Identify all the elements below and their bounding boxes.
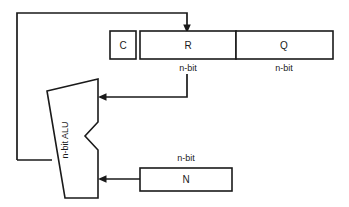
- block-diagram-canvas: C R n-bit Q n-bit n-bit ALU N n-bit: [0, 0, 349, 207]
- q-register-label: Q: [280, 40, 288, 51]
- q-register-width-label: n-bit: [275, 63, 293, 73]
- r-register-box: R n-bit: [140, 31, 236, 73]
- n-register-box: N n-bit: [140, 153, 232, 191]
- alu-block: n-bit ALU: [47, 79, 98, 198]
- n-register-label: N: [182, 174, 189, 185]
- r-to-alu-wire: [98, 74, 187, 101]
- n-to-alu-arrow-head: [98, 175, 107, 183]
- r-to-alu-arrow-head: [98, 93, 107, 101]
- n-register-width-label: n-bit: [177, 153, 195, 163]
- q-register-box: Q n-bit: [236, 31, 333, 73]
- r-register-label: R: [184, 40, 191, 51]
- n-to-alu-wire: [98, 175, 140, 183]
- diagram-svg: C R n-bit Q n-bit n-bit ALU N n-bit: [0, 0, 349, 207]
- carry-flag-label: C: [119, 40, 126, 51]
- r-register-width-label: n-bit: [179, 63, 197, 73]
- carry-flag-box: C: [110, 31, 136, 59]
- alu-label: n-bit ALU: [60, 121, 70, 158]
